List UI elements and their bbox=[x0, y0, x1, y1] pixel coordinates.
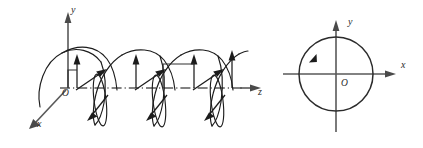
vertical-vector-1-bracket bbox=[68, 70, 77, 88]
helix-arc-trail bbox=[239, 51, 248, 54]
vertical-vector-1-head bbox=[74, 54, 81, 65]
helix-z-axis bbox=[60, 85, 261, 92]
vertical-vector-3-head bbox=[191, 54, 198, 65]
circle-y-axis-arrowhead bbox=[333, 20, 340, 31]
figure-canvas: y z x O y x O bbox=[0, 0, 423, 148]
helix-arc-rise-2 bbox=[152, 55, 181, 126]
helix-panel: y z x O bbox=[29, 4, 262, 129]
helix-arc-crest-3 bbox=[181, 50, 233, 90]
circle-origin-label: O bbox=[341, 78, 348, 88]
circle-x-axis-arrowhead bbox=[385, 71, 396, 78]
circle-rotation-arrowhead bbox=[309, 53, 319, 65]
vertical-vector-4-head bbox=[229, 50, 236, 61]
circle-y-axis-label: y bbox=[347, 16, 353, 27]
helix-origin-label: O bbox=[62, 88, 69, 98]
helix-arc-crest-1 bbox=[62, 47, 117, 90]
helix-curve-group bbox=[39, 47, 248, 126]
helix-y-axis-label: y bbox=[70, 4, 76, 15]
helix-arc-lead bbox=[39, 50, 101, 107]
helix-z-axis-label: z bbox=[257, 86, 262, 97]
vertical-vector-2-head bbox=[133, 54, 140, 65]
helix-tilted-vectors bbox=[76, 69, 225, 121]
circle-x-axis-label: x bbox=[400, 59, 406, 70]
helix-arc-rise-1 bbox=[93, 55, 122, 125]
circle-x-axis bbox=[283, 71, 396, 78]
helix-x-axis-label: x bbox=[36, 118, 42, 129]
figure-root: y z x O y x O bbox=[0, 0, 423, 148]
helix-x-axis bbox=[29, 90, 66, 129]
circle-panel: y x O bbox=[283, 16, 406, 132]
helix-arc-crest-2 bbox=[122, 50, 175, 90]
